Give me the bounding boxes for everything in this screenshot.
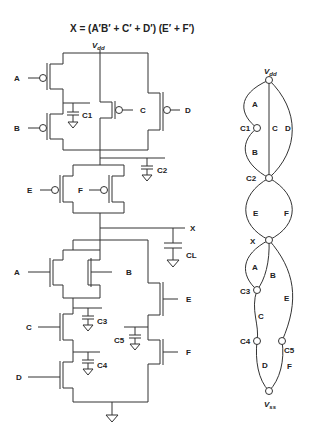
graph-edge-c-top-label: C xyxy=(272,124,278,133)
pulldown-wire-ab xyxy=(73,240,100,250)
nmos-input-b-label: B xyxy=(126,268,132,277)
graph-c3-label: C3 xyxy=(240,287,251,296)
nmos-input-a-label: A xyxy=(14,268,20,277)
graph-edge-b-bot-label: B xyxy=(270,271,276,280)
graph-edge-e-bot-label: E xyxy=(284,294,290,303)
nmos-a: A xyxy=(14,240,100,298)
vdd-label: Vdd xyxy=(92,41,105,51)
graph-c5-label: C5 xyxy=(284,346,295,355)
input-d-label: D xyxy=(185,106,191,115)
graph-edge-e-mid-label: E xyxy=(253,209,259,218)
capacitor-c1: C1 xyxy=(63,103,93,128)
node-x xyxy=(266,237,273,244)
c2-label: C2 xyxy=(157,166,168,175)
node-c5 xyxy=(279,338,286,345)
nmos-b: B xyxy=(73,250,132,298)
node-c1 xyxy=(254,125,261,132)
graph-vdd-label: Vdd xyxy=(264,67,277,77)
boolean-expression-title: X = (A′B′ + C′ + D′) (E′ + F′) xyxy=(70,23,194,34)
graph-vss-label: Vss xyxy=(264,400,277,410)
nmos-d: D xyxy=(16,352,73,402)
capacitor-c5: C5 xyxy=(114,327,148,350)
graph-edge-d-top-label: D xyxy=(285,124,291,133)
node-vdd xyxy=(266,77,273,84)
c1-label: C1 xyxy=(82,111,93,120)
circuit-diagram: X = (A′B′ + C′ + D′) (E′ + F′) Vdd A C1 … xyxy=(0,0,312,444)
nmos-f: F xyxy=(148,320,191,402)
nmos-input-c-label: C xyxy=(26,323,32,332)
pmos-a: A xyxy=(14,53,63,103)
nmos-c: C xyxy=(26,308,73,352)
edge-f-bot xyxy=(269,341,283,391)
pmos-c: C xyxy=(100,53,146,150)
graph-edge-f-bot-label: F xyxy=(287,362,292,371)
cl-label: CL xyxy=(186,251,197,260)
graph-c4-label: C4 xyxy=(240,337,251,346)
c4-label: C4 xyxy=(97,361,108,370)
edge-e-bot xyxy=(269,240,293,341)
pmos-e: E xyxy=(27,165,100,213)
ground-symbol xyxy=(73,402,148,422)
input-e-label: E xyxy=(27,186,33,195)
nmos-e: E xyxy=(148,282,192,320)
graph-c2-label: C2 xyxy=(246,174,257,183)
nmos-input-f-label: F xyxy=(186,348,191,357)
node-c2 xyxy=(266,175,273,182)
input-f-label: F xyxy=(78,186,83,195)
euler-graph: Vdd C1 C2 X C3 C4 C5 xyxy=(240,67,295,410)
graph-edge-d-bot-label: D xyxy=(262,361,268,370)
vdd-rail xyxy=(63,50,148,53)
input-b-label: B xyxy=(14,124,20,133)
output-x-label: X xyxy=(190,224,196,233)
input-a-label: A xyxy=(14,74,20,83)
graph-edge-a-bot-label: A xyxy=(252,263,258,272)
graph-edge-b-top-label: B xyxy=(252,148,258,157)
graph-edge-c-bot-label: C xyxy=(258,312,264,321)
node-vss xyxy=(266,388,273,395)
nmos-input-e-label: E xyxy=(186,295,192,304)
graph-c1-label: C1 xyxy=(240,124,251,133)
pulldown-wire-ef xyxy=(100,240,148,283)
graph-edge-f-mid-label: F xyxy=(284,209,289,218)
node-c3 xyxy=(254,287,261,294)
graph-x-label: X xyxy=(250,237,256,246)
pmos-f: F xyxy=(78,165,124,213)
input-c-label: C xyxy=(140,106,146,115)
c3-label: C3 xyxy=(97,317,108,326)
graph-edge-a-top-label: A xyxy=(252,100,258,109)
c5-label: C5 xyxy=(114,336,125,345)
node-c4 xyxy=(254,338,261,345)
capacitor-c4: C4 xyxy=(73,352,108,375)
edge-b-bot xyxy=(257,240,269,290)
pmos-d: D xyxy=(148,53,191,150)
nmos-input-d-label: D xyxy=(16,373,22,382)
capacitor-c3: C3 xyxy=(73,298,108,331)
pmos-b: B xyxy=(14,103,63,150)
